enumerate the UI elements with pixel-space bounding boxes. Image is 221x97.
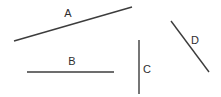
label-d: D [191,34,199,46]
label-b: B [68,55,75,67]
label-c: C [143,63,151,75]
line-segments-figure: A B C D [0,0,221,97]
diagram-canvas: A B C D [0,0,221,97]
label-a: A [64,7,72,19]
canvas-background [0,0,221,97]
